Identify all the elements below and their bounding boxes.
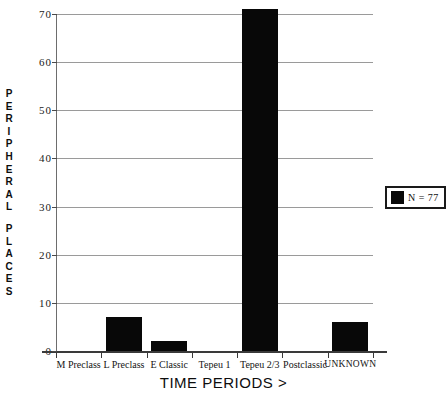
y-title-letter-12: L <box>6 236 12 249</box>
chart-legend: N = 77 <box>385 186 446 209</box>
y-title-letter-11: P <box>6 223 13 236</box>
y-title-letter-13: A <box>5 248 12 261</box>
x-tick-mark-0 <box>56 352 57 358</box>
y-tick-mark-60 <box>52 62 57 63</box>
x-tick-mark-1 <box>101 352 102 358</box>
x-tick-label-tepeu-2-3: Tepeu 2/3 <box>240 359 280 370</box>
y-tick-mark-20 <box>52 255 57 256</box>
x-tick-label-l-preclass: L Preclass <box>103 359 144 370</box>
y-title-letter-8: A <box>5 189 12 202</box>
bar-chart: PERIPHERALPLACES 010203040506070 M Precl… <box>0 0 447 397</box>
legend-label-n77: N = 77 <box>408 192 439 203</box>
y-tick-label-20: 20 <box>26 249 52 261</box>
y-title-letter-15: E <box>6 273 13 286</box>
x-tick-mark-7 <box>373 352 374 358</box>
bar-tepeu-2-3 <box>242 9 278 351</box>
x-axis-title: TIME PERIODS > <box>0 374 447 391</box>
y-title-letter-0: P <box>6 88 13 101</box>
y-tick-mark-50 <box>52 110 57 111</box>
y-title-letter-4: P <box>6 138 13 151</box>
x-tick-mark-5 <box>282 352 283 358</box>
x-tick-label-unknown: UNKNOWN <box>324 359 376 369</box>
gridline-70 <box>56 14 373 15</box>
bar-e-classic <box>151 341 187 351</box>
bar-l-preclass <box>106 317 142 351</box>
gridline-30 <box>56 207 373 208</box>
y-axis-title: PERIPHERALPLACES <box>2 88 16 299</box>
y-tick-mark-10 <box>52 303 57 304</box>
y-title-letter-2: R <box>5 113 12 126</box>
y-title-letter-3: I <box>8 126 11 139</box>
y-tick-label-30: 30 <box>26 201 52 213</box>
y-title-letter-1: E <box>6 101 13 114</box>
y-title-letter-9: L <box>6 201 12 214</box>
gridline-20 <box>56 255 373 256</box>
x-tick-mark-3 <box>192 352 193 358</box>
y-title-letter-16: S <box>6 286 13 299</box>
gridline-60 <box>56 62 373 63</box>
x-tick-label-postclassic: Postclassic <box>283 359 327 370</box>
x-tick-label-tepeu-1: Tepeu 1 <box>199 359 231 370</box>
gridline-50 <box>56 110 373 111</box>
y-tick-mark-70 <box>52 14 57 15</box>
y-title-letter-14: C <box>5 261 12 274</box>
y-tick-mark-30 <box>52 207 57 208</box>
y-tick-mark-0 <box>52 351 57 352</box>
x-tick-mark-6 <box>328 352 329 358</box>
gridline-10 <box>56 303 373 304</box>
y-axis-tick-labels: 010203040506070 <box>22 0 52 397</box>
x-tick-label-e-classic: E Classic <box>150 359 188 370</box>
x-tick-label-m-preclass: M Preclass <box>57 359 101 370</box>
y-tick-mark-40 <box>52 158 57 159</box>
bar-unknown <box>332 322 368 351</box>
y-tick-label-40: 40 <box>26 152 52 164</box>
y-title-letter-5: H <box>5 151 12 164</box>
y-tick-label-50: 50 <box>26 104 52 116</box>
y-tick-label-70: 70 <box>26 8 52 20</box>
y-tick-label-10: 10 <box>26 297 52 309</box>
x-axis-line <box>42 351 387 353</box>
legend-swatch-n77 <box>391 191 404 204</box>
gridline-40 <box>56 158 373 159</box>
x-tick-mark-4 <box>237 352 238 358</box>
y-tick-label-60: 60 <box>26 56 52 68</box>
x-tick-mark-2 <box>147 352 148 358</box>
y-title-letter-7: R <box>5 176 12 189</box>
plot-area <box>56 14 373 351</box>
y-title-letter-6: E <box>6 164 13 177</box>
